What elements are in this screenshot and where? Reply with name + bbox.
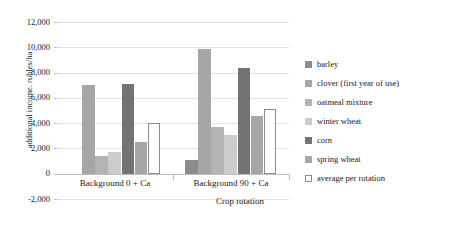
legend-item[interactable]: barley [305, 55, 451, 74]
legend-item[interactable]: corn [305, 131, 451, 150]
legend-swatch-icon [305, 175, 312, 182]
legend-swatch-icon [305, 137, 312, 144]
legend-label: average per rotation [317, 174, 385, 183]
category-separator [289, 174, 290, 180]
bars-layer [57, 22, 289, 199]
bar-corn-group-2 [238, 68, 251, 174]
y-axis-tick-label: 4,000 [2, 119, 50, 128]
legend-item[interactable]: oatmeal mixture [305, 93, 451, 112]
bar-clover-first-year-of-use-group-1 [82, 85, 95, 174]
x-axis-title: Crop rotation [170, 196, 310, 206]
legend-swatch-icon [305, 156, 312, 163]
legend-label: spring wheat [317, 155, 361, 164]
bar-winter-wheat-group-1 [108, 152, 121, 174]
legend-item[interactable]: winter wheat [305, 112, 451, 131]
bar-spring-wheat-group-2 [251, 116, 264, 174]
legend-item[interactable]: spring wheat [305, 150, 451, 169]
y-axis-tick-label: 0 [2, 169, 50, 178]
plot-area [57, 22, 289, 199]
legend-swatch-icon [305, 61, 312, 68]
y-axis-tick-label: 10,000 [2, 43, 50, 52]
bar-average-per-rotation-group-1 [148, 123, 161, 174]
bar-oatmeal-mixture-group-2 [211, 127, 224, 174]
legend-item[interactable]: average per rotation [305, 169, 451, 188]
legend-label: clover (first year of use) [317, 79, 399, 88]
bar-spring-wheat-group-1 [135, 142, 148, 174]
y-axis-tick-label: 6,000 [2, 93, 50, 102]
y-axis-tick-label: 2,000 [2, 144, 50, 153]
bar-oatmeal-mixture-group-1 [95, 156, 108, 174]
legend-swatch-icon [305, 99, 312, 106]
y-axis-tick-label: -2,000 [2, 195, 50, 204]
legend-item[interactable]: clover (first year of use) [305, 74, 451, 93]
bar-corn-group-1 [122, 84, 135, 174]
legend-swatch-icon [305, 80, 312, 87]
x-axis-category-label: Background 0 + Ca [57, 178, 173, 188]
legend-label: corn [317, 136, 332, 145]
bar-clover-first-year-of-use-group-2 [198, 49, 211, 174]
legend-label: oatmeal mixture [317, 98, 372, 107]
y-axis-tick-labels: 12,00010,0008,0006,0004,0002,0000-2,000 [2, 22, 50, 199]
legend-label: barley [317, 60, 338, 69]
chart-container: additional income. rubles/ha 12,00010,00… [0, 0, 451, 226]
legend-label: winter wheat [317, 117, 361, 126]
legend-swatch-icon [305, 118, 312, 125]
bar-winter-wheat-group-2 [224, 135, 237, 174]
chart-legend: barleyclover (first year of use)oatmeal … [305, 55, 451, 188]
y-axis-tick-label: 12,000 [2, 18, 50, 27]
y-axis-tick-label: 8,000 [2, 68, 50, 77]
bar-barley-group-2 [185, 160, 198, 174]
x-axis-category-label: Background 90 + Ca [173, 178, 289, 188]
bar-average-per-rotation-group-2 [264, 109, 277, 174]
